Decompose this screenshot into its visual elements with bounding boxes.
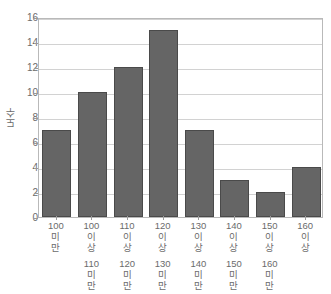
x-tick-label-line: 130 [145, 258, 181, 269]
y-tick-label: 8 [4, 113, 38, 123]
x-tick-label-line: 160 [287, 220, 323, 231]
bar [292, 167, 321, 217]
bar-chart: 도수 0246810121416 100미만100이상110미만110이상120… [0, 0, 331, 294]
x-tick-label-line: 이 [216, 231, 252, 242]
x-tick-mark [234, 216, 235, 220]
x-tick-label: 140이상150미만 [216, 220, 252, 291]
x-tick-label-line: 미 [181, 269, 217, 280]
x-tick-label-line: 상 [109, 242, 145, 253]
x-axis: 100미만100이상110미만110이상120미만120이상130미만130이상… [38, 220, 323, 294]
x-tick-label-line: 이 [74, 231, 110, 242]
x-tick-label-line: 100 [38, 220, 74, 231]
bar [78, 92, 107, 217]
y-tick-label: 6 [4, 138, 38, 148]
x-tick-label-line: 미 [74, 269, 110, 280]
x-tick-label-line: 미 [38, 231, 74, 242]
x-tick-label: 150이상160미만 [252, 220, 288, 291]
x-tick-mark [198, 216, 199, 220]
x-tick-label-line: 130 [181, 220, 217, 231]
x-tick-label: 160이상 [287, 220, 323, 253]
y-tick-label: 4 [4, 163, 38, 173]
x-tick-label-line: 상 [287, 242, 323, 253]
x-tick-label-line: 140 [216, 220, 252, 231]
x-tick-label-line: 150 [216, 258, 252, 269]
x-tick-mark [163, 216, 164, 220]
x-tick-label-line: 이 [181, 231, 217, 242]
bar [185, 130, 214, 218]
bar [114, 67, 143, 217]
bar [42, 130, 71, 218]
x-tick-label-line: 150 [252, 220, 288, 231]
x-tick-label-line: 상 [145, 242, 181, 253]
x-tick-label-line: 이 [252, 231, 288, 242]
y-tick-label: 14 [4, 38, 38, 48]
x-tick-label-line: 상 [74, 242, 110, 253]
x-tick-label-line: 상 [252, 242, 288, 253]
x-tick-label-line: 미 [145, 269, 181, 280]
x-tick-label-line: 이 [145, 231, 181, 242]
y-axis: 0246810121416 [0, 18, 38, 218]
x-tick-mark [56, 216, 57, 220]
bars [39, 19, 322, 217]
x-tick-label-line: 이 [109, 231, 145, 242]
x-tick-label-line: 120 [145, 220, 181, 231]
x-tick-label: 100이상110미만 [74, 220, 110, 291]
y-tick-label: 2 [4, 188, 38, 198]
y-tick-label: 12 [4, 63, 38, 73]
x-tick-label: 130이상140미만 [181, 220, 217, 291]
x-tick-label-line: 110 [109, 220, 145, 231]
x-tick-label-line: 이 [287, 231, 323, 242]
x-tick-label-line: 120 [109, 258, 145, 269]
x-tick-label-line: 미 [252, 269, 288, 280]
x-tick-label-line: 110 [74, 258, 110, 269]
x-tick-label-line: 상 [181, 242, 217, 253]
bar [256, 192, 285, 217]
x-tick-mark [127, 216, 128, 220]
footer-caption [0, 288, 331, 294]
y-tick-label: 16 [4, 13, 38, 23]
x-tick-mark [91, 216, 92, 220]
x-tick-label-line: 140 [181, 258, 217, 269]
x-tick-label-line: 미 [109, 269, 145, 280]
bar [149, 30, 178, 218]
y-tick-label: 0 [4, 213, 38, 223]
x-tick-label-line: 100 [74, 220, 110, 231]
x-tick-label-line: 160 [252, 258, 288, 269]
x-tick-mark [305, 216, 306, 220]
x-tick-label-line: 만 [38, 242, 74, 253]
x-tick-label-line: 미 [216, 269, 252, 280]
bar [220, 180, 249, 218]
plot-area [38, 18, 323, 218]
x-tick-label-line: 상 [216, 242, 252, 253]
x-tick-label: 100미만 [38, 220, 74, 253]
x-tick-label: 120이상130미만 [145, 220, 181, 291]
y-tick-label: 10 [4, 88, 38, 98]
x-tick-mark [270, 216, 271, 220]
x-tick-label: 110이상120미만 [109, 220, 145, 291]
